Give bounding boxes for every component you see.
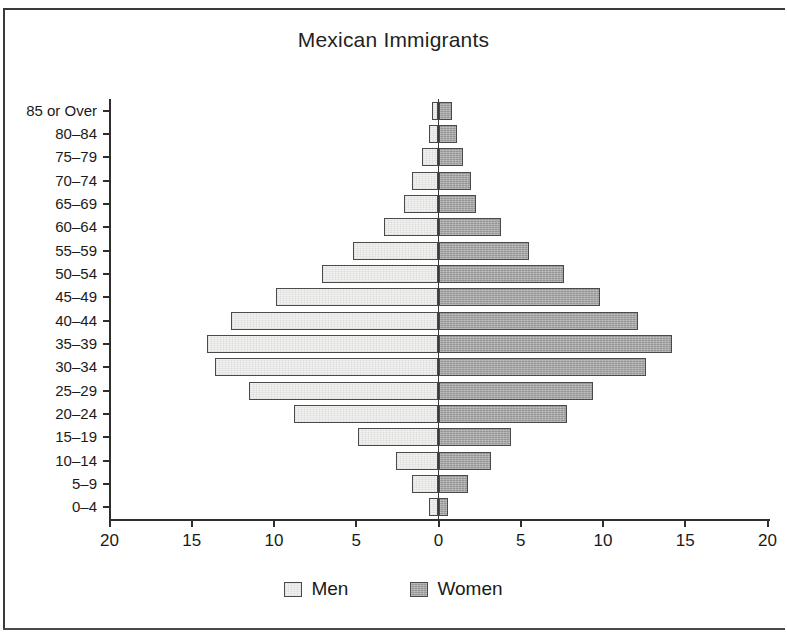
y-axis-tick (103, 203, 110, 205)
bar-men (249, 382, 438, 400)
y-axis-tick-label: 10–14 (55, 453, 97, 468)
bar-women (439, 312, 638, 330)
x-axis-tick-label: 10 (583, 531, 623, 551)
x-axis-tick (520, 519, 522, 527)
bar-women (439, 125, 457, 143)
bar-women (439, 148, 464, 166)
bar-women (439, 102, 452, 120)
bar-women (439, 172, 472, 190)
bar-women (439, 498, 449, 516)
bar-men (429, 498, 439, 516)
y-axis-tick (103, 320, 110, 322)
bar-women (439, 288, 600, 306)
y-axis-tick (103, 436, 110, 438)
x-axis-tick (438, 519, 440, 527)
y-axis-tick-label: 65–69 (55, 196, 97, 211)
y-axis-tick-label: 75–79 (55, 149, 97, 164)
y-axis-tick-label: 5–9 (72, 476, 97, 491)
y-axis-tick-label: 0–4 (72, 499, 97, 514)
y-axis-tick (103, 273, 110, 275)
bar-women (439, 265, 564, 283)
legend-swatch-women (410, 582, 428, 597)
bar-men (432, 102, 439, 120)
y-axis-tick (103, 226, 110, 228)
bar-men (294, 405, 439, 423)
x-axis-line (109, 519, 770, 521)
bar-women (439, 405, 567, 423)
x-axis-tick (767, 519, 769, 527)
y-axis-tick (103, 133, 110, 135)
legend-label: Women (437, 578, 502, 600)
bar-women (439, 452, 492, 470)
y-axis-tick (103, 390, 110, 392)
y-axis-tick-label: 15–19 (55, 429, 97, 444)
bar-men (412, 475, 438, 493)
bar-men (322, 265, 439, 283)
x-axis-tick (191, 519, 193, 527)
bar-women (439, 218, 502, 236)
bar-men (207, 335, 439, 353)
bar-women (439, 358, 646, 376)
bar-men (358, 428, 439, 446)
x-axis-tick-label: 20 (90, 531, 130, 551)
y-axis-tick (103, 180, 110, 182)
bar-men (231, 312, 438, 330)
x-axis-tick-label: 15 (172, 531, 212, 551)
x-axis-tick-label: 5 (501, 531, 541, 551)
bar-men (353, 242, 439, 260)
x-axis-tick (684, 519, 686, 527)
y-axis-tick (103, 413, 110, 415)
y-axis-tick-label: 40–44 (55, 313, 97, 328)
y-axis-tick (103, 460, 110, 462)
x-axis-tick-label: 10 (254, 531, 294, 551)
y-axis-tick-label: 60–64 (55, 219, 97, 234)
y-axis-tick-label: 25–29 (55, 383, 97, 398)
bar-men (422, 148, 438, 166)
bar-women (439, 382, 594, 400)
y-axis-tick (103, 156, 110, 158)
bar-men (412, 172, 438, 190)
bar-men (384, 218, 438, 236)
x-axis-tick (273, 519, 275, 527)
y-axis-tick-label: 70–74 (55, 173, 97, 188)
y-axis-tick (103, 250, 110, 252)
x-axis-tick (109, 519, 111, 527)
bar-women (439, 335, 673, 353)
y-axis-tick (103, 366, 110, 368)
x-axis-tick (355, 519, 357, 527)
legend-swatch-men (284, 582, 302, 597)
plot-area: 85 or Over80–8475–7970–7465–6960–6455–59… (0, 0, 787, 637)
bar-men (429, 125, 439, 143)
y-axis-tick (103, 506, 110, 508)
y-axis-tick (103, 296, 110, 298)
y-axis-tick-label: 55–59 (55, 243, 97, 258)
y-axis-tick-label: 80–84 (55, 126, 97, 141)
y-axis-tick-label: 85 or Over (26, 103, 97, 118)
legend-item-men[interactable]: Men (284, 578, 348, 600)
y-axis-line (109, 99, 111, 521)
bar-men (276, 288, 439, 306)
legend-label: Men (311, 578, 348, 600)
y-axis-tick-label: 50–54 (55, 266, 97, 281)
legend-item-women[interactable]: Women (410, 578, 502, 600)
y-axis-tick (103, 483, 110, 485)
bar-women (439, 475, 469, 493)
x-axis-tick (602, 519, 604, 527)
bar-women (439, 242, 529, 260)
y-axis-tick (103, 343, 110, 345)
bar-men (404, 195, 439, 213)
y-axis-tick-label: 20–24 (55, 406, 97, 421)
bar-men (215, 358, 439, 376)
x-axis-tick-label: 0 (419, 531, 459, 551)
bar-women (439, 428, 511, 446)
bar-men (396, 452, 439, 470)
population-pyramid-figure: Mexican Immigrants 85 or Over80–8475–797… (0, 0, 787, 637)
y-axis-tick (103, 110, 110, 112)
x-axis-tick-label: 20 (748, 531, 787, 551)
chart-legend: MenWomen (0, 578, 787, 600)
x-axis-tick-label: 15 (665, 531, 705, 551)
x-axis-tick-label: 5 (336, 531, 376, 551)
y-axis-tick-label: 30–34 (55, 359, 97, 374)
y-axis-tick-label: 45–49 (55, 289, 97, 304)
y-axis-tick-label: 35–39 (55, 336, 97, 351)
